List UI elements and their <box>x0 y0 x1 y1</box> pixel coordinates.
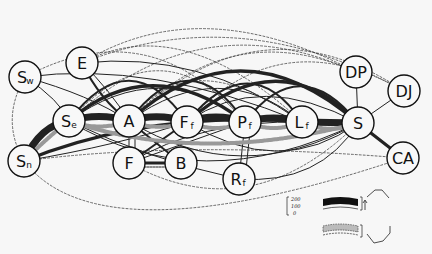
node-label: F <box>179 113 188 132</box>
node-Lf: Lf <box>286 106 318 138</box>
up-arrow-icon <box>363 200 367 210</box>
node-Sw: Sw <box>9 61 41 93</box>
node-label: CA <box>392 149 414 168</box>
node-B: B <box>165 147 197 179</box>
node-subscript: w <box>26 76 33 86</box>
node-label: F <box>124 154 133 173</box>
node-A: A <box>113 105 145 137</box>
node-Se: Se <box>53 105 85 137</box>
node-CA: CA <box>387 142 419 174</box>
node-label: L <box>295 113 304 132</box>
legend-scale-0: 0 <box>293 210 297 216</box>
legend-scale-100: 100 <box>291 203 301 209</box>
node-DJ: DJ <box>388 75 420 107</box>
node-label: S <box>61 112 71 131</box>
legend-solid-band <box>323 197 358 206</box>
legend-scale-200: 200 <box>290 196 301 202</box>
node-label: DP <box>345 63 367 82</box>
node-label: R <box>230 170 241 189</box>
node-label: E <box>77 54 87 73</box>
node-Pf: Pf <box>229 106 261 138</box>
node-subscript: n <box>26 160 32 170</box>
node-subscript: e <box>71 120 77 130</box>
node-label: B <box>176 154 187 173</box>
node-F: F <box>113 147 145 179</box>
node-label: S <box>16 152 26 171</box>
node-S: S <box>342 107 374 139</box>
counter-clockwise-arrows-icon <box>367 226 390 243</box>
legend: 200 100 0 <box>287 190 390 243</box>
clockwise-arrows-icon <box>367 190 389 198</box>
node-Ff: Ff <box>171 106 203 138</box>
network-diagram: SwESeSnAFfPfLfSDPDJCAFBRf 200 100 0 <box>0 0 432 254</box>
node-Sn: Sn <box>8 145 40 177</box>
node-label: P <box>237 113 247 132</box>
node-label: A <box>124 112 135 131</box>
node-label: DJ <box>395 82 412 101</box>
node-E: E <box>66 47 98 79</box>
legend-hatched-band <box>323 224 358 232</box>
node-label: S <box>353 114 363 133</box>
node-Rf: Rf <box>223 163 255 195</box>
node-DP: DP <box>340 56 372 88</box>
diagram-canvas: SwESeSnAFfPfLfSDPDJCAFBRf 200 100 0 <box>0 0 432 254</box>
